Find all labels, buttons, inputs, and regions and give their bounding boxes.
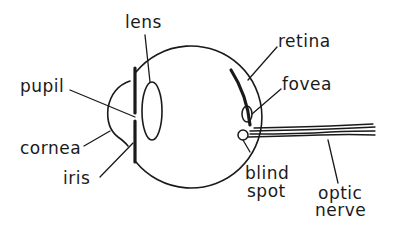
label-blind-spot-line2: spot xyxy=(247,183,286,200)
eye-diagram: lens pupil cornea iris retina fovea blin… xyxy=(0,0,397,227)
label-optic-nerve-line2: nerve xyxy=(315,202,366,219)
leader-fovea xyxy=(252,89,281,114)
retina-layer xyxy=(231,70,250,125)
leader-optic-nerve xyxy=(328,140,338,183)
label-fovea: fovea xyxy=(282,76,332,93)
label-pupil: pupil xyxy=(20,78,64,95)
leader-retina xyxy=(248,47,277,80)
label-lens: lens xyxy=(125,14,162,31)
leader-iris xyxy=(100,143,133,177)
label-cornea: cornea xyxy=(20,140,81,157)
leader-cornea xyxy=(84,131,110,146)
blind-spot xyxy=(238,130,248,140)
label-retina: retina xyxy=(278,33,331,50)
label-iris: iris xyxy=(63,170,90,187)
leader-blind-spot xyxy=(243,140,250,152)
leader-lens xyxy=(145,35,150,82)
leader-pupil xyxy=(70,90,135,117)
label-blind-spot-line1: blind xyxy=(245,165,289,182)
lens xyxy=(142,82,162,140)
